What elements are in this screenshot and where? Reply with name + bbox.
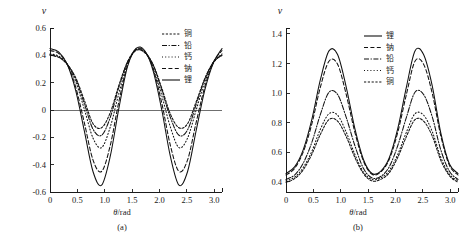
chart-b-x-tick-label: 1.5	[363, 195, 374, 205]
chart-b-axes	[286, 28, 458, 192]
chart-a-x-tick-label: 0	[48, 195, 52, 205]
chart-b-legend-item: 钙	[364, 65, 394, 75]
chart-b-legend-item: 钠	[364, 42, 394, 52]
chart-b-x-axis-title: θ/rad	[349, 207, 367, 217]
chart-a-x-tick-label: 1.5	[127, 195, 138, 205]
chart-a-x-tick-label: 1.0	[99, 195, 110, 205]
chart-b-y-symbol-text: ν	[278, 5, 283, 16]
chart-b-legend-label: 锂	[386, 30, 394, 40]
chart-b-y-tick-label: 1.2	[271, 59, 282, 69]
chart-b-canvas: ν 1.41.21.00.80.60.4 00.51.01.52.02.53.0…	[236, 0, 472, 234]
figure-root: ν 0.60.40.20-0.2-0.4-0.6 00.51.01.52.02.…	[0, 0, 472, 234]
chart-b-curves	[286, 48, 458, 182]
chart-b-x-tick-label: 3.0	[445, 195, 456, 205]
chart-a-legend-item: 锂	[162, 74, 192, 84]
chart-a-canvas: ν 0.60.40.20-0.2-0.4-0.6 00.51.01.52.02.…	[0, 0, 236, 234]
chart-b-y-tick-label: 0.4	[271, 177, 282, 187]
chart-a-legend-label: 钙	[184, 51, 192, 61]
chart-b-x-tick-label: 0.5	[308, 195, 319, 205]
chart-a-y-tick-label: 0.2	[35, 78, 46, 88]
chart-b-y-tick-label: 0.6	[271, 147, 282, 157]
chart-a-x-tick-label: 0.5	[72, 195, 83, 205]
chart-a-y-tick-label: -0.2	[33, 132, 46, 142]
chart-a-x-axis-title: θ/rad	[113, 207, 131, 217]
chart-a-y-tick-label: -0.4	[33, 160, 47, 170]
chart-a-series-line	[50, 47, 222, 186]
chart-b-legend-label: 铜	[386, 76, 394, 86]
chart-a-legend-item: 钙	[162, 51, 192, 61]
chart-a-series-line	[50, 49, 222, 148]
chart-b-legend-item: 铜	[364, 76, 394, 86]
chart-a-y-tick-label: 0	[42, 105, 46, 115]
chart-b-legend-label: 钙	[386, 65, 394, 75]
chart-b-caption: (b)	[353, 222, 363, 232]
chart-a-x-ticks: 00.51.01.52.02.53.0	[48, 189, 220, 206]
chart-a-legend-item: 铜	[162, 28, 192, 38]
chart-b-x-ticks: 00.51.01.52.02.53.0	[284, 189, 456, 206]
chart-a-y-axis-symbol: ν	[42, 5, 47, 16]
chart-a-y-tick-label: -0.6	[33, 187, 46, 197]
chart-a-y-tick-label: 0.6	[35, 23, 46, 33]
chart-b-legend: 锂钠铅钙铜	[364, 30, 394, 86]
chart-b-legend-item: 铅	[364, 53, 394, 63]
chart-a-curves	[50, 47, 222, 186]
chart-a-legend-item: 铅	[162, 40, 192, 50]
chart-b-x-axis-unit: /rad	[353, 207, 367, 217]
chart-b-x-tick-label: 2.0	[390, 195, 401, 205]
chart-b-y-tick-label: 1.0	[271, 88, 282, 98]
chart-panel-a: ν 0.60.40.20-0.2-0.4-0.6 00.51.01.52.02.…	[0, 0, 236, 234]
chart-b-legend-label: 钠	[386, 42, 394, 52]
chart-b-y-axis-symbol: ν	[278, 5, 283, 16]
chart-panel-b: ν 1.41.21.00.80.60.4 00.51.01.52.02.53.0…	[236, 0, 472, 234]
chart-b-x-tick-label: 2.5	[418, 195, 429, 205]
chart-a-legend-label: 铜	[184, 28, 192, 38]
chart-b-y-ticks: 1.41.21.00.80.60.4	[271, 29, 289, 187]
chart-a-y-symbol-text: ν	[42, 5, 47, 16]
chart-a-x-tick-label: 2.5	[182, 195, 193, 205]
chart-b-x-tick-label: 1.0	[335, 195, 346, 205]
chart-a-legend-label: 钠	[184, 63, 192, 73]
chart-b-x-tick-label: 0	[284, 195, 288, 205]
chart-b-y-tick-label: 1.4	[271, 29, 282, 39]
chart-a-legend-item: 钠	[162, 63, 192, 73]
chart-a-legend-label: 铅	[184, 40, 192, 50]
chart-a-x-axis-unit: /rad	[117, 207, 131, 217]
chart-a-x-tick-label: 2.0	[154, 195, 165, 205]
chart-a-caption: (a)	[117, 222, 127, 232]
chart-b-legend-label: 铅	[386, 53, 394, 63]
chart-b-legend-item: 锂	[364, 30, 394, 40]
chart-b-y-tick-label: 0.8	[271, 118, 282, 128]
chart-a-x-tick-label: 3.0	[209, 195, 220, 205]
chart-a-legend: 铜铅钙钠锂	[162, 28, 192, 84]
chart-a-y-tick-label: 0.4	[35, 50, 46, 60]
chart-a-legend-label: 锂	[184, 74, 192, 84]
